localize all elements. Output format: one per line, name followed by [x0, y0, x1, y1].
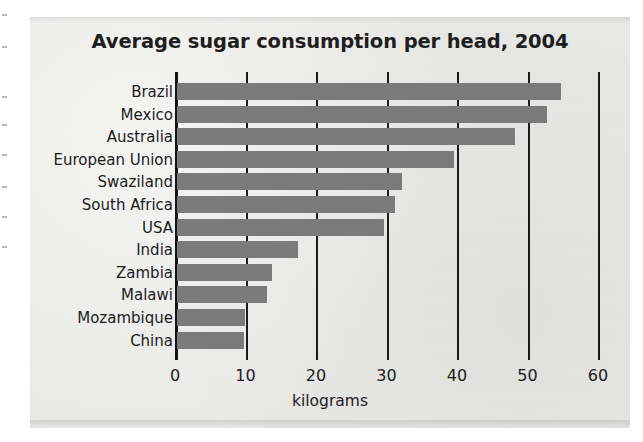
category-label: China: [130, 333, 173, 350]
bar: [177, 128, 515, 145]
category-label: Brazil: [131, 84, 173, 101]
x-tick-label: 20: [296, 366, 336, 385]
category-label: Mozambique: [77, 310, 173, 327]
category-label: Zambia: [116, 265, 173, 282]
category-label: South Africa: [82, 197, 173, 214]
category-label: Mexico: [121, 107, 173, 124]
bar: [177, 241, 298, 258]
gridline-60: [598, 72, 600, 360]
category-label: Malawi: [121, 287, 173, 304]
bar: [177, 196, 395, 213]
category-label: European Union: [53, 152, 173, 169]
bar: [177, 219, 384, 236]
x-tick-label: 40: [437, 366, 477, 385]
bar: [177, 286, 267, 303]
x-tick-label: 10: [226, 366, 266, 385]
x-tick-label: 50: [508, 366, 548, 385]
x-tick-label: 0: [155, 366, 195, 385]
category-label: Australia: [107, 129, 173, 146]
category-label: India: [136, 242, 173, 259]
x-tick-label: 30: [367, 366, 407, 385]
bar: [177, 264, 272, 281]
bar: [177, 309, 245, 326]
bar: [177, 332, 244, 349]
bar: [177, 151, 454, 168]
x-tick-label: 60: [578, 366, 618, 385]
category-label: USA: [142, 220, 173, 237]
bar: [177, 106, 547, 123]
bar: [177, 173, 402, 190]
category-label: Swaziland: [98, 174, 173, 191]
plot-area: BrazilMexicoAustraliaEuropean UnionSwazi…: [0, 0, 643, 442]
chart-screenshot: Average sugar consumption per head, 2004…: [0, 0, 643, 442]
bar: [177, 83, 561, 100]
x-axis-title: kilograms: [30, 392, 630, 410]
